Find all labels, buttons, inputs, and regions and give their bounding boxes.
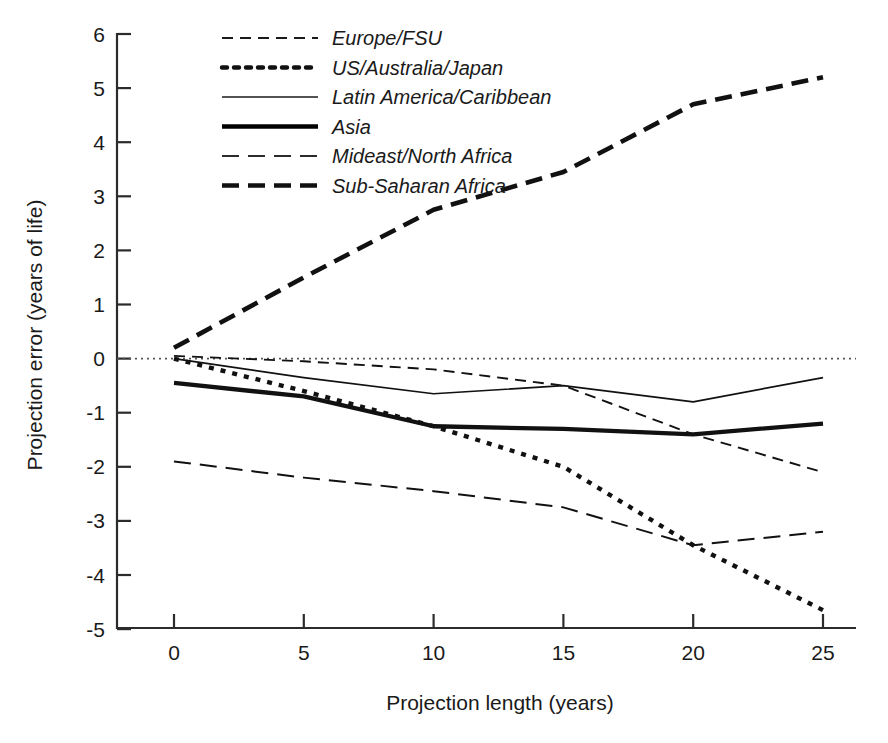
x-tick-label: 20 xyxy=(682,641,705,664)
legend-label-4: Asia xyxy=(331,116,371,138)
legend-label-1: Europe/FSU xyxy=(332,27,443,49)
series-line-asia xyxy=(174,383,823,434)
y-tick-label: 4 xyxy=(93,131,105,154)
x-tick-label: 0 xyxy=(168,641,180,664)
x-tick-label: 15 xyxy=(552,641,575,664)
axis-layer: 6543210-1-2-3-4-50510152025 xyxy=(86,23,856,665)
y-tick-label: 3 xyxy=(93,185,105,208)
series-line-sub-saharan-africa xyxy=(174,77,823,348)
x-tick-label: 10 xyxy=(422,641,445,664)
chart-legend: Europe/FSUUS/Australia/JapanLatin Americ… xyxy=(222,27,551,197)
legend-label-2: US/Australia/Japan xyxy=(332,57,503,79)
y-tick-label: 1 xyxy=(93,293,105,316)
y-axis-title: Projection error (years of life) xyxy=(23,200,46,471)
legend-label-5: Mideast/North Africa xyxy=(332,145,512,167)
series-line-latin-america-caribbean xyxy=(174,359,823,402)
chart-container: Projection error (years of life) Project… xyxy=(0,0,888,743)
y-tick-label: -5 xyxy=(86,618,105,641)
y-tick-label: -1 xyxy=(86,401,105,424)
y-tick-label: -2 xyxy=(86,455,105,478)
axis-frame xyxy=(117,33,856,628)
y-tick-label: 0 xyxy=(93,347,105,370)
y-tick-label: 6 xyxy=(93,23,105,46)
legend-label-3: Latin America/Caribbean xyxy=(332,86,551,108)
series-line-mideast-north-africa xyxy=(174,461,823,545)
y-tick-label: -3 xyxy=(86,509,105,532)
y-tick-label: 2 xyxy=(93,239,105,262)
y-tick-label: 5 xyxy=(93,77,105,100)
legend-label-6: Sub-Saharan Africa xyxy=(332,175,506,197)
x-tick-label: 5 xyxy=(298,641,310,664)
x-tick-label: 25 xyxy=(811,641,834,664)
x-axis-title: Projection length (years) xyxy=(386,691,614,714)
y-tick-label: -4 xyxy=(86,564,105,587)
line-chart: Projection error (years of life) Project… xyxy=(0,0,888,743)
